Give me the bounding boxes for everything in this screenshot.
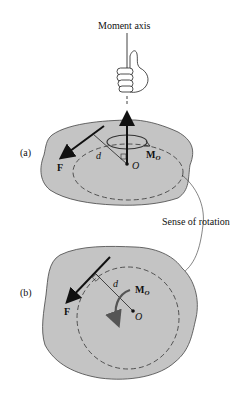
- force-label-b: F: [64, 306, 70, 317]
- sense-of-rotation-label: Sense of rotation: [162, 216, 230, 227]
- right-hand-icon: [117, 51, 148, 93]
- point-o-label-b: O: [135, 311, 142, 322]
- force-label-a: F: [57, 162, 63, 173]
- panel-b-label: (b): [20, 287, 32, 299]
- moment-axis-label: Moment axis: [98, 20, 151, 31]
- moment-diagram: Moment axis (a) F d MO O Sense of rotati…: [0, 0, 236, 400]
- plate-a: [41, 120, 193, 205]
- panel-a-label: (a): [20, 147, 31, 159]
- point-o-a: [125, 162, 129, 166]
- point-o-label-a: O: [132, 160, 139, 171]
